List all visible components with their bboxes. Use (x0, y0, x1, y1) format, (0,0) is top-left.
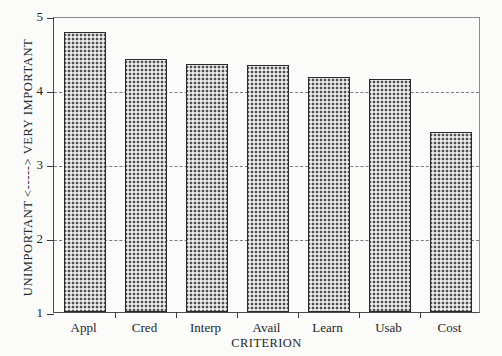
x-axis-tick (298, 312, 299, 318)
bar (247, 65, 289, 312)
y-axis-tick-label: 2 (23, 231, 43, 247)
bar (308, 77, 350, 312)
y-axis-tick-label: 1 (23, 305, 43, 321)
x-axis-tick-label: Appl (53, 320, 114, 336)
x-axis-tick (237, 312, 238, 318)
x-axis-tick (115, 312, 116, 318)
x-axis-tick-label: Learn (297, 320, 358, 336)
x-axis-tick-label: Cost (419, 320, 480, 336)
bar (186, 64, 228, 312)
bar (430, 132, 472, 312)
x-axis-tick (359, 312, 360, 318)
y-axis-tick (47, 240, 54, 241)
y-axis-tick (47, 166, 54, 167)
x-axis-tick-label: Cred (114, 320, 175, 336)
y-axis-tick (47, 18, 54, 19)
plot-area (53, 17, 480, 313)
bar (64, 32, 106, 312)
bar-chart-figure: UNIMPORTANT <-----> VERY IMPORTANT 12345… (0, 0, 502, 356)
bar (125, 59, 167, 312)
x-axis-tick-label: Interp (175, 320, 236, 336)
x-axis-title: CRITERION (53, 336, 480, 351)
x-axis-tick-label: Avail (236, 320, 297, 336)
bar (369, 79, 411, 312)
y-axis-tick (47, 92, 54, 93)
y-axis-tick-label: 5 (23, 9, 43, 25)
x-axis-tick-label: Usab (358, 320, 419, 336)
x-axis-tick (420, 312, 421, 318)
y-axis-tick (47, 314, 54, 315)
y-axis-tick-label: 4 (23, 83, 43, 99)
y-axis-tick-label: 3 (23, 157, 43, 173)
x-axis-tick (176, 312, 177, 318)
